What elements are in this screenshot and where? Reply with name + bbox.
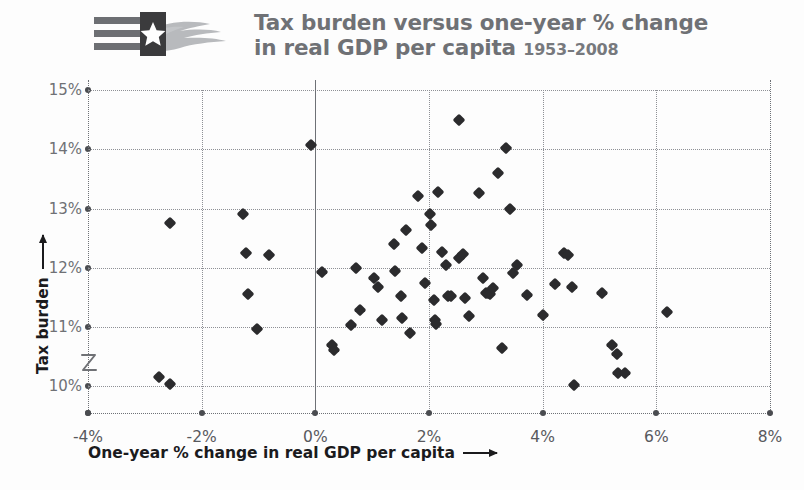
chart-title-years: 1953–2008 — [523, 40, 618, 59]
data-point — [344, 318, 357, 331]
data-point — [596, 286, 609, 299]
data-point — [350, 261, 363, 274]
data-point — [400, 223, 413, 236]
arrow-up-icon — [42, 235, 44, 269]
chart-header: Tax burden versus one-year % change in r… — [88, 8, 788, 74]
data-point — [477, 272, 490, 285]
gridline-vertical — [656, 90, 657, 413]
data-point — [164, 378, 177, 391]
x-tick-marker — [540, 410, 546, 416]
data-point — [549, 278, 562, 291]
y-tick-label: 15% — [49, 81, 82, 99]
data-point — [376, 314, 389, 327]
x-tick-marker — [653, 410, 659, 416]
data-point — [492, 167, 505, 180]
zero-axis-line — [315, 80, 316, 416]
data-point — [389, 264, 402, 277]
gridline-vertical — [543, 90, 544, 413]
data-point — [499, 142, 512, 155]
data-point — [495, 342, 508, 355]
data-point — [440, 258, 453, 271]
data-point — [394, 290, 407, 303]
title-block: Tax burden versus one-year % change in r… — [254, 8, 708, 62]
data-point — [425, 219, 438, 232]
data-point — [403, 327, 416, 340]
x-tick-marker — [312, 410, 318, 416]
gridline-vertical — [88, 80, 89, 416]
chart-title-line-1: Tax burden versus one-year % change — [254, 10, 708, 35]
scatter-plot — [88, 90, 770, 413]
x-axis-title-text: One-year % change in real GDP per capita — [88, 444, 455, 462]
chart-title-line-2-text: in real GDP per capita — [254, 35, 516, 60]
data-point — [395, 312, 408, 325]
x-tick-marker — [85, 410, 91, 416]
x-axis-title: One-year % change in real GDP per capita — [88, 444, 497, 462]
flag-stripes — [94, 17, 140, 50]
data-point — [416, 242, 429, 255]
data-point — [503, 202, 516, 215]
x-tick-label: 4% — [530, 428, 555, 446]
data-point — [520, 289, 533, 302]
data-point — [566, 280, 579, 293]
x-tick-label: 6% — [644, 428, 669, 446]
y-tick-label: 11% — [49, 318, 82, 336]
data-point — [462, 310, 475, 323]
data-point — [536, 309, 549, 322]
texas-flag-hand-logo — [88, 8, 248, 64]
data-point — [568, 379, 581, 392]
data-point — [353, 304, 366, 317]
data-point — [262, 249, 275, 262]
x-tick-marker — [426, 410, 432, 416]
gridline-vertical — [202, 90, 203, 413]
data-point — [164, 216, 177, 229]
y-tick-label: 10% — [49, 377, 82, 395]
data-point — [432, 186, 445, 199]
data-point — [452, 113, 465, 126]
data-point — [240, 247, 253, 260]
data-point — [242, 288, 255, 301]
y-tick-label: 14% — [49, 140, 82, 158]
y-axis-title-text: Tax burden — [34, 277, 52, 374]
flag-star-block — [140, 12, 166, 56]
arrow-right-icon — [463, 452, 497, 454]
data-point — [473, 186, 486, 199]
data-point — [435, 246, 448, 259]
chart-page: Tax burden versus one-year % change in r… — [0, 0, 804, 490]
x-tick-marker — [767, 410, 773, 416]
x-axis-labels: -4%-2%0%2%4%6%8% — [88, 420, 778, 444]
data-point — [412, 190, 425, 203]
gridline-vertical — [770, 80, 771, 416]
y-tick-label: 12% — [49, 259, 82, 277]
y-axis-title: Tax burden — [34, 224, 52, 374]
gridline-vertical — [429, 90, 430, 413]
x-tick-label: 8% — [758, 428, 783, 446]
data-point — [459, 292, 472, 305]
data-point — [153, 371, 166, 384]
chart-title-line-2: in real GDP per capita 1953–2008 — [254, 35, 708, 62]
data-point — [251, 322, 264, 335]
data-point — [387, 238, 400, 251]
data-point — [660, 306, 673, 319]
x-tick-marker — [199, 410, 205, 416]
y-tick-label: 13% — [49, 200, 82, 218]
